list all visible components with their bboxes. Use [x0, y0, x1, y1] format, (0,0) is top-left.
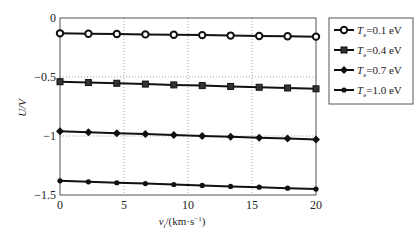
- x-tick-label: 0: [57, 198, 63, 212]
- x-label-end: ): [202, 215, 206, 228]
- square-marker: [256, 84, 262, 90]
- x-tick-label: 15: [246, 198, 258, 212]
- diamond-marker: [56, 127, 64, 135]
- circle-open-marker: [313, 33, 319, 39]
- x-axis-label: vt/(km·s−1): [159, 215, 206, 230]
- y-tick-label: −0.5: [34, 70, 56, 84]
- legend: Te=0.1 eVTe=0.4 eVTe=0.7 eVTe=1.0 eV: [329, 18, 413, 104]
- dot-marker: [341, 87, 346, 92]
- x-axis-ticks: 05101520: [57, 198, 322, 212]
- x-tick-label: 10: [182, 198, 194, 212]
- diamond-marker: [312, 136, 320, 144]
- dot-marker: [285, 186, 290, 191]
- dot-marker: [257, 185, 262, 190]
- diamond-marker: [198, 132, 206, 140]
- circle-open-marker: [199, 32, 205, 38]
- diamond-marker: [255, 134, 263, 142]
- square-marker: [142, 81, 148, 87]
- diamond-marker: [141, 130, 149, 138]
- dot-marker: [313, 187, 318, 192]
- x-label-rest: /(km·s: [165, 215, 194, 228]
- diamond-marker: [227, 133, 235, 141]
- circle-open-marker: [85, 30, 91, 36]
- square-marker: [85, 80, 91, 86]
- circle-open-marker: [284, 33, 290, 39]
- circle-open-marker: [341, 27, 347, 33]
- dot-marker: [228, 184, 233, 189]
- x-tick-label: 5: [121, 198, 127, 212]
- diamond-marker: [84, 128, 92, 136]
- square-marker: [285, 85, 291, 91]
- dot-marker: [57, 178, 62, 183]
- square-marker: [313, 86, 319, 92]
- circle-open-marker: [256, 33, 262, 39]
- grid-lines: [60, 18, 316, 195]
- series-2: [57, 79, 319, 92]
- circle-open-marker: [171, 32, 177, 38]
- series-line: [60, 181, 316, 189]
- dot-marker: [200, 183, 205, 188]
- circle-open-marker: [142, 31, 148, 37]
- square-marker: [171, 82, 177, 88]
- y-axis-ticks: 0−0.5−1−1.5: [34, 11, 56, 202]
- dot-marker: [143, 181, 148, 186]
- y-tick-label: −1.5: [34, 188, 56, 202]
- y-tick-label: −1: [43, 129, 56, 143]
- circle-open-marker: [57, 30, 63, 36]
- x-tick-label: 20: [310, 198, 322, 212]
- square-marker: [57, 79, 63, 85]
- circle-open-marker: [114, 31, 120, 37]
- dot-marker: [86, 179, 91, 184]
- series-1: [57, 30, 319, 40]
- dot-marker: [171, 182, 176, 187]
- y-axis-label: U/V: [16, 98, 28, 117]
- square-marker: [228, 83, 234, 89]
- y-tick-label: 0: [50, 11, 56, 25]
- chart: 05101520 0−0.5−1−1.5 U/V vt/(km·s−1) Te=…: [0, 0, 414, 241]
- circle-open-marker: [227, 32, 233, 38]
- diamond-marker: [170, 131, 178, 139]
- dot-marker: [114, 180, 119, 185]
- square-marker: [114, 80, 120, 86]
- diamond-marker: [284, 135, 292, 143]
- square-marker: [341, 47, 347, 53]
- square-marker: [199, 83, 205, 89]
